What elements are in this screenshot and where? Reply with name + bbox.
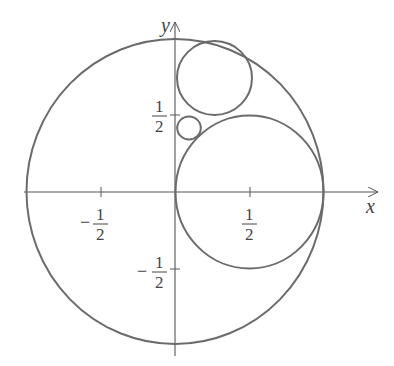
numerator: 1 bbox=[155, 253, 164, 272]
upper-circle bbox=[177, 41, 252, 115]
minus-sign: − bbox=[137, 261, 147, 281]
small-circle bbox=[177, 117, 201, 140]
y-tick-label-pos-half: 1 2 bbox=[152, 97, 167, 136]
denominator: 2 bbox=[245, 225, 254, 244]
numerator: 1 bbox=[155, 97, 164, 116]
denominator: 2 bbox=[96, 225, 105, 244]
numerator: 1 bbox=[96, 205, 105, 224]
circles-diagram: y x − 1 2 1 2 1 2 − 1 2 bbox=[0, 0, 394, 366]
diagram-canvas: y x − 1 2 1 2 1 2 − 1 2 bbox=[0, 0, 394, 366]
x-tick-label-pos-half: 1 2 bbox=[242, 205, 257, 244]
denominator: 2 bbox=[155, 273, 164, 292]
denominator: 2 bbox=[155, 117, 164, 136]
numerator: 1 bbox=[245, 205, 254, 224]
x-tick-label-neg-half: − 1 2 bbox=[80, 205, 108, 244]
y-tick-label-neg-half: − 1 2 bbox=[137, 253, 167, 292]
minus-sign: − bbox=[80, 212, 90, 232]
x-axis-label: x bbox=[365, 195, 375, 217]
y-axis-label: y bbox=[159, 14, 170, 37]
